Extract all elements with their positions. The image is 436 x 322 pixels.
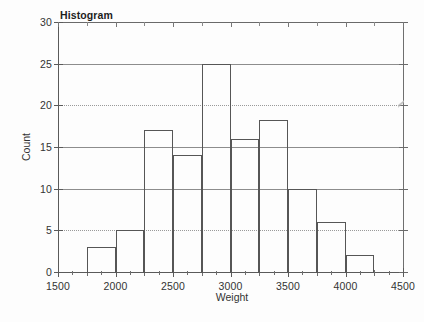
scan-artifact <box>398 96 404 112</box>
x-tick-label-1500: 1500 <box>46 280 70 292</box>
right-edge-clip <box>424 0 436 322</box>
x-tick-top-3000 <box>231 22 232 27</box>
plot-area: 051015202530 150020002500300035004000450… <box>58 22 404 273</box>
histogram-bar <box>346 255 375 273</box>
x-tick-top-4250 <box>374 22 375 26</box>
y-tick-right-15 <box>399 147 408 148</box>
x-tick-4250 <box>374 270 375 276</box>
x-tick-label-4000: 4000 <box>333 280 357 292</box>
gridline-y-25 <box>59 64 403 65</box>
histogram-bar <box>202 64 231 273</box>
y-axis-label: Count <box>20 133 32 161</box>
y-tick-label-15: 15 <box>40 141 52 153</box>
x-tick-1500 <box>58 268 59 277</box>
x-tick-top-3500 <box>288 22 289 27</box>
histogram-bar <box>173 155 202 273</box>
histogram-bar <box>231 139 260 273</box>
x-tick-top-3750 <box>317 22 318 26</box>
y-tick-right-10 <box>399 189 408 190</box>
histogram-bar <box>144 130 173 273</box>
x-tick-top-2000 <box>116 22 117 27</box>
x-tick-top-2750 <box>202 22 203 26</box>
x-tick-top-4500 <box>403 22 404 27</box>
x-tick-4500 <box>403 268 404 277</box>
x-tick-minor-4375 <box>389 271 390 275</box>
x-tick-label-4500: 4500 <box>391 280 415 292</box>
x-tick-label-3000: 3000 <box>218 280 242 292</box>
y-tick-right-5 <box>399 230 408 231</box>
x-tick-label-3500: 3500 <box>276 280 300 292</box>
x-axis-label: Weight <box>216 291 249 303</box>
histogram-bar <box>288 189 317 273</box>
y-tick-label-5: 5 <box>46 224 52 236</box>
y-tick-label-20: 20 <box>40 99 52 111</box>
histogram-bar <box>87 247 116 273</box>
x-tick-top-2250 <box>144 22 145 26</box>
y-tick-25 <box>54 64 63 65</box>
chart-title: Histogram <box>60 9 113 21</box>
y-tick-label-30: 30 <box>40 16 52 28</box>
y-tick-5 <box>54 230 63 231</box>
x-tick-minor-1625 <box>72 271 73 275</box>
y-tick-label-25: 25 <box>40 58 52 70</box>
histogram-bar <box>259 120 288 274</box>
y-tick-right-25 <box>399 64 408 65</box>
gridline-y-20 <box>59 105 403 106</box>
x-tick-top-1500 <box>58 22 59 27</box>
x-tick-top-1750 <box>87 22 88 26</box>
y-tick-label-10: 10 <box>40 183 52 195</box>
y-tick-10 <box>54 189 63 190</box>
histogram-figure: Histogram Count Weight 051015202530 1500… <box>0 0 436 322</box>
histogram-bar <box>317 222 346 273</box>
x-tick-top-3250 <box>259 22 260 26</box>
y-tick-15 <box>54 147 63 148</box>
histogram-bar <box>116 230 145 273</box>
y-tick-20 <box>54 105 63 106</box>
y-tick-label-0: 0 <box>46 266 52 278</box>
x-tick-label-2500: 2500 <box>161 280 185 292</box>
x-tick-top-4000 <box>346 22 347 27</box>
x-tick-top-2500 <box>173 22 174 27</box>
x-tick-label-2000: 2000 <box>103 280 127 292</box>
